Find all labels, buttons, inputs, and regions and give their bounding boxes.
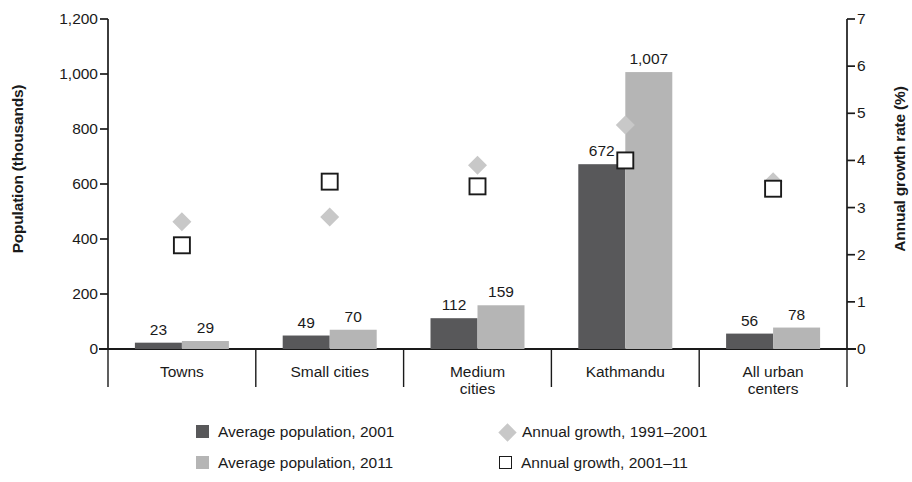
x-axis-category-label: All urbancenters: [699, 363, 847, 397]
bar-value-label: 78: [757, 307, 837, 323]
chart-legend: Average population, 2001 Annual growth, …: [196, 420, 836, 478]
growth-marker-square: [470, 178, 486, 194]
bar: [283, 336, 330, 349]
x-axis-category-label-line: centers: [699, 380, 847, 397]
chart-container: Population (thousands) Annual growth rat…: [0, 0, 912, 482]
legend-swatch-light-square: [196, 456, 209, 469]
plot-area: [0, 0, 912, 482]
legend-swatch-dark-square: [196, 425, 209, 438]
bar: [578, 164, 625, 349]
bar: [625, 72, 672, 349]
x-axis-category-label: Kathmandu: [551, 363, 699, 380]
x-axis-category-label-line: Kathmandu: [551, 363, 699, 380]
x-axis-category-label-line: All urban: [699, 363, 847, 380]
bar: [135, 343, 182, 349]
legend-swatch-open-square: [499, 456, 512, 469]
growth-marker-square: [174, 237, 190, 253]
x-axis-category-label-line: Towns: [108, 363, 256, 380]
bar-value-label: 1,007: [609, 51, 689, 67]
legend-label: Annual growth, 1991–2001: [522, 424, 707, 440]
bar: [773, 328, 820, 349]
growth-marker-diamond: [172, 212, 191, 231]
legend-label: Average population, 2001: [218, 424, 394, 440]
legend-label: Average population, 2011: [218, 455, 393, 471]
legend-item-avg-population-2011: Average population, 2011: [196, 455, 393, 471]
bar: [182, 341, 229, 349]
x-axis-category-label-line: cities: [404, 380, 552, 397]
legend-item-annual-growth-1991-2001: Annual growth, 1991–2001: [499, 424, 707, 440]
growth-marker-square: [322, 174, 338, 190]
legend-item-annual-growth-2001-11: Annual growth, 2001–11: [499, 455, 688, 471]
bar-value-label: 159: [461, 284, 541, 300]
growth-marker-diamond: [320, 208, 339, 227]
x-axis-category-label: Small cities: [256, 363, 404, 380]
x-axis-category-label: Mediumcities: [404, 363, 552, 397]
bar-value-label: 672: [562, 143, 642, 159]
growth-marker-square: [765, 181, 781, 197]
bar-value-label: 70: [313, 309, 393, 325]
legend-item-avg-population-2001: Average population, 2001: [196, 424, 394, 440]
bar: [726, 334, 773, 349]
legend-label: Annual growth, 2001–11: [521, 455, 688, 471]
growth-marker-diamond: [468, 156, 487, 175]
x-axis-category-label-line: Medium: [404, 363, 552, 380]
bar-value-label: 29: [165, 320, 245, 336]
x-axis-category-label: Towns: [108, 363, 256, 380]
bar: [431, 318, 478, 349]
x-axis-category-label-line: Small cities: [256, 363, 404, 380]
legend-swatch-diamond: [499, 424, 515, 440]
bar: [330, 330, 377, 349]
